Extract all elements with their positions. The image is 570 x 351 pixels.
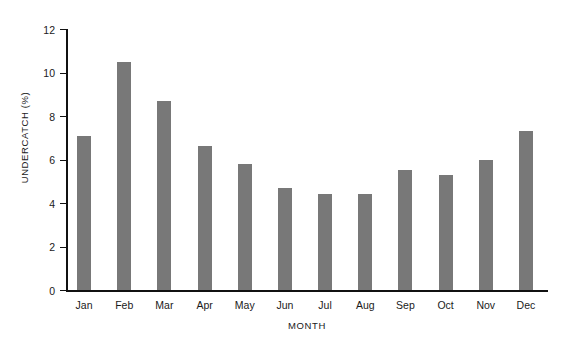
- x-axis-line: [66, 290, 548, 292]
- x-tick-label: May: [235, 299, 255, 311]
- y-tick-label: 6: [49, 154, 55, 166]
- x-tick-label: Jan: [76, 299, 93, 311]
- y-tick-label: 12: [43, 24, 55, 36]
- x-tick-label: Apr: [196, 299, 212, 311]
- x-tick-label: Oct: [437, 299, 453, 311]
- bar: [117, 62, 131, 290]
- x-axis-title: MONTH: [66, 320, 548, 331]
- x-tick-label: Jul: [318, 299, 331, 311]
- x-tick-label: Sep: [396, 299, 415, 311]
- bar: [157, 101, 171, 290]
- y-tick-label: 0: [49, 285, 55, 297]
- bar-series: [66, 29, 548, 290]
- bar: [238, 164, 252, 290]
- y-tick-label: 2: [49, 241, 55, 253]
- bar: [198, 146, 212, 290]
- bar-chart: UNDERCATCH (%) 024681012 JanFebMarAprMay…: [0, 0, 570, 351]
- x-tick-label: Jun: [276, 299, 293, 311]
- plot-area: 024681012 JanFebMarAprMayJunJulAugSepOct…: [66, 29, 548, 290]
- bar: [439, 175, 453, 290]
- x-tick-label: Dec: [517, 299, 536, 311]
- x-tick-label: Feb: [115, 299, 133, 311]
- y-tick: 0: [60, 290, 66, 291]
- bar: [358, 194, 372, 290]
- bar: [77, 136, 91, 290]
- x-tick-label: Mar: [155, 299, 173, 311]
- y-tick-label: 10: [43, 67, 55, 79]
- bar: [519, 131, 533, 290]
- bar: [479, 160, 493, 291]
- bar: [398, 170, 412, 290]
- bar: [318, 194, 332, 290]
- x-tick-label: Aug: [356, 299, 375, 311]
- bar: [278, 188, 292, 290]
- x-tick-label: Nov: [476, 299, 495, 311]
- y-tick-label: 8: [49, 111, 55, 123]
- y-tick-label: 4: [49, 198, 55, 210]
- y-axis-title: UNDERCATCH (%): [19, 78, 30, 198]
